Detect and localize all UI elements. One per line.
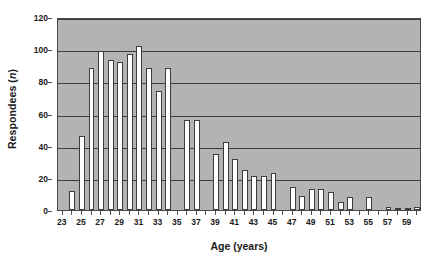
bar — [156, 91, 162, 210]
x-tick-label: 41 — [229, 217, 238, 227]
x-tick-mark — [273, 211, 274, 215]
x-tick-mark — [186, 211, 187, 215]
y-tick-mark — [48, 50, 52, 51]
y-tick-label: 20 — [39, 174, 48, 184]
bar — [405, 208, 411, 210]
x-tick-mark — [81, 211, 82, 215]
bar — [366, 197, 372, 210]
y-tick-mark — [48, 82, 52, 83]
y-tick-mark — [48, 179, 52, 180]
x-tick-mark — [407, 211, 408, 215]
bar — [251, 176, 257, 210]
x-tick-mark — [119, 211, 120, 215]
x-tick-label: 53 — [344, 217, 353, 227]
y-tick-label: 40 — [39, 142, 48, 152]
bar — [69, 191, 75, 210]
x-tick-label: 29 — [115, 217, 124, 227]
x-tick-mark — [282, 211, 283, 215]
x-tick-mark — [225, 211, 226, 215]
bar — [194, 120, 200, 210]
bar — [338, 202, 344, 210]
bar — [309, 189, 315, 210]
x-axis-title: Age (years) — [57, 240, 421, 252]
x-tick-mark — [234, 211, 235, 215]
x-tick-label: 37 — [191, 217, 200, 227]
y-tick-mark — [48, 18, 52, 19]
gridline — [58, 51, 420, 52]
x-tick-mark — [110, 211, 111, 215]
x-tick-mark — [340, 211, 341, 215]
bar — [98, 51, 104, 210]
x-tick-mark — [311, 211, 312, 215]
x-tick-mark — [129, 211, 130, 215]
x-tick-label: 55 — [364, 217, 373, 227]
x-tick-mark — [62, 211, 63, 215]
x-tick-mark — [330, 211, 331, 215]
y-tick-label: 60 — [39, 110, 48, 120]
bar — [242, 170, 248, 210]
histogram-figure: Respondees (n) 020406080100120 232527293… — [0, 0, 433, 271]
bar — [213, 154, 219, 210]
bar — [79, 136, 85, 210]
bar — [136, 46, 142, 210]
x-tick-mark — [177, 211, 178, 215]
x-tick-mark — [387, 211, 388, 215]
x-tick-label: 57 — [383, 217, 392, 227]
y-tick-label: 80 — [39, 77, 48, 87]
x-tick-mark — [158, 211, 159, 215]
x-tick-mark — [368, 211, 369, 215]
x-tick-mark — [359, 211, 360, 215]
y-tick-mark — [48, 211, 52, 212]
x-tick-label: 47 — [287, 217, 296, 227]
bar — [414, 207, 420, 210]
y-tick-mark — [48, 115, 52, 116]
x-tick-mark — [100, 211, 101, 215]
x-tick-mark — [91, 211, 92, 215]
x-tick-mark — [263, 211, 264, 215]
bar — [184, 120, 190, 210]
x-tick-label: 27 — [95, 217, 104, 227]
x-tick-mark — [167, 211, 168, 215]
x-tick-mark — [148, 211, 149, 215]
bar — [318, 189, 324, 210]
x-tick-label: 33 — [153, 217, 162, 227]
x-tick-mark — [320, 211, 321, 215]
x-tick-mark — [301, 211, 302, 215]
x-tick-mark — [397, 211, 398, 215]
plot-area — [57, 18, 421, 211]
x-tick-label: 31 — [134, 217, 143, 227]
x-tick-label: 51 — [325, 217, 334, 227]
bar — [127, 54, 133, 210]
gridline — [58, 19, 420, 20]
x-axis-ticks: 23252729313335373941434547495153555759 — [57, 211, 421, 237]
bar — [328, 192, 334, 210]
x-tick-label: 23 — [57, 217, 66, 227]
bar — [165, 68, 171, 210]
y-tick-label: 100 — [34, 45, 48, 55]
bar — [108, 60, 114, 210]
bar — [299, 196, 305, 210]
x-tick-mark — [416, 211, 417, 215]
x-tick-label: 43 — [249, 217, 258, 227]
bar — [89, 68, 95, 210]
bar — [395, 208, 401, 210]
x-tick-label: 45 — [268, 217, 277, 227]
x-tick-label: 35 — [172, 217, 181, 227]
x-tick-mark — [71, 211, 72, 215]
x-tick-mark — [378, 211, 379, 215]
bar — [146, 68, 152, 210]
bar — [232, 159, 238, 210]
y-tick-mark — [48, 147, 52, 148]
bar — [290, 187, 296, 210]
x-tick-mark — [292, 211, 293, 215]
y-axis-title-variable: n — [6, 73, 18, 80]
x-tick-mark — [196, 211, 197, 215]
bar — [271, 173, 277, 210]
x-tick-mark — [138, 211, 139, 215]
bar — [347, 197, 353, 210]
bar — [117, 62, 123, 210]
y-tick-label: 120 — [34, 13, 48, 23]
bar — [386, 207, 392, 210]
bar — [223, 142, 229, 210]
x-tick-label: 59 — [402, 217, 411, 227]
